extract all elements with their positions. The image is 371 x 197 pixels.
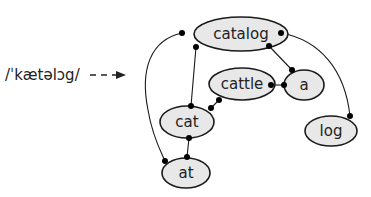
node-label: at [178,164,193,182]
node-log: log [305,116,357,146]
node-cattle: cattle [209,68,275,100]
word-graph-diagram: /ˈkætəlɔg/ catalog cattle a cat [0,0,371,197]
edge-catalog-cat [191,47,196,106]
node-label: log [320,122,343,140]
node-catalog: catalog [194,17,288,51]
edge-catalog-at [145,33,182,161]
node-label: cat [175,113,198,131]
edge-catalog-a [269,46,292,70]
node-label: catalog [213,25,268,43]
node-at: at [162,158,210,188]
node-a: a [284,70,324,100]
node-label: cattle [221,75,264,93]
dashed-arrow-icon [90,71,126,79]
node-cat: cat [160,106,214,138]
node-label: a [299,76,308,94]
pronunciation-label: /ˈkætəlɔg/ [5,66,81,84]
